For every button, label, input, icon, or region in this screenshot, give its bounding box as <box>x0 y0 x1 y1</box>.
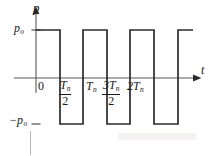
three-tn-over-2-numerator-symbol: 3T <box>103 78 116 92</box>
three-tn-over-2-numerator-subscript: n <box>116 84 120 93</box>
p-positive-tick-label: po <box>14 22 24 36</box>
tn-symbol: T <box>86 79 93 93</box>
minus-sign: − <box>9 113 17 127</box>
tn-over-2-numerator: Tn <box>59 79 71 93</box>
waveform-trace <box>36 30 193 124</box>
p-axis-label: p <box>33 1 40 14</box>
scan-edge-rule <box>30 131 31 155</box>
two-tn-subscript: n <box>140 85 144 94</box>
t-axis-label: t <box>201 64 204 76</box>
origin-tick-label: 0 <box>38 80 44 92</box>
tn-over-2-numerator-symbol: T <box>60 78 67 92</box>
tn-over-2-numerator-subscript: n <box>67 84 71 93</box>
scan-artifact <box>118 133 196 140</box>
tick-label-tn-over-2: Tn 2 <box>59 79 71 107</box>
p-positive-subscript: o <box>20 27 24 36</box>
two-tn-symbol: 2T <box>127 79 140 93</box>
square-wave-figure: p t po −po 0 Tn 2Tn Tn 2 3Tn 2 <box>0 0 212 156</box>
three-tn-over-2-denominator: 2 <box>102 95 120 107</box>
p-negative-subscript: o <box>23 119 27 128</box>
three-tn-over-2-numerator: 3Tn <box>102 79 120 93</box>
square-wave-path <box>36 30 193 124</box>
p-negative-tick-label: −po <box>9 114 27 128</box>
tn-over-2-denominator: 2 <box>59 95 71 107</box>
tick-label-tn: Tn <box>86 80 97 94</box>
tick-label-2tn: 2Tn <box>127 80 144 94</box>
tick-label-3tn-over-2: 3Tn 2 <box>102 79 120 107</box>
tn-subscript: n <box>93 85 97 94</box>
